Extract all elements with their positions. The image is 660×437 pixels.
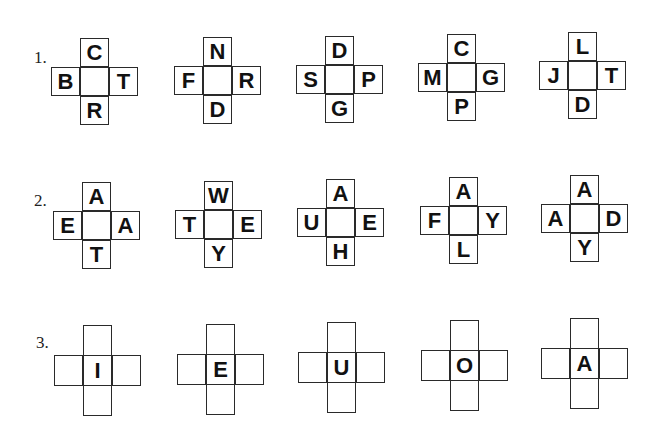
cell-center-blank[interactable] (325, 65, 354, 94)
cell-center-blank[interactable] (326, 208, 355, 237)
cell-left[interactable]: A (541, 204, 570, 233)
cell-center-blank[interactable] (80, 67, 109, 96)
cell-center-blank[interactable] (203, 66, 232, 95)
cell-center[interactable]: O (450, 350, 479, 381)
cell-center[interactable]: E (206, 354, 235, 385)
cell-right-blank[interactable] (599, 348, 628, 379)
row-1-puzzle-1: C B T R (51, 38, 141, 128)
row-1-puzzle-3: D S P G (296, 36, 386, 126)
cell-center-blank[interactable] (447, 63, 476, 92)
cell-top[interactable]: W (204, 181, 233, 210)
row-2-puzzle-2: W T E Y (175, 181, 265, 271)
cell-left-blank[interactable] (54, 355, 83, 386)
row-3-number: 3. (36, 333, 49, 353)
row-1-number: 1. (34, 48, 47, 68)
cell-right[interactable]: T (597, 61, 626, 90)
cell-center[interactable]: U (327, 352, 356, 383)
cell-left[interactable]: S (296, 65, 325, 94)
row-2-puzzle-1: A E A T (53, 182, 143, 272)
cell-bottom[interactable]: G (325, 94, 354, 123)
row-3-puzzle-2: E (177, 324, 267, 414)
cell-left[interactable]: B (51, 67, 80, 96)
cell-top[interactable]: A (570, 175, 599, 204)
cell-right-blank[interactable] (112, 355, 141, 386)
cell-right-blank[interactable] (479, 350, 508, 381)
cell-center[interactable]: I (83, 355, 112, 386)
cell-right[interactable]: E (233, 210, 262, 239)
row-1-puzzle-2: N F R D (174, 37, 264, 127)
row-3-puzzle-1: I (54, 325, 144, 415)
cell-right[interactable]: A (111, 211, 140, 240)
cell-right[interactable]: G (476, 63, 505, 92)
cell-left[interactable]: F (174, 66, 203, 95)
cell-right[interactable]: P (354, 65, 383, 94)
cell-top-blank[interactable] (206, 324, 235, 355)
cell-top[interactable]: L (568, 32, 597, 61)
row-2-puzzle-3: A U E H (297, 179, 387, 269)
cell-bottom[interactable]: Y (204, 239, 233, 268)
cell-bottom[interactable]: R (80, 96, 109, 125)
cell-bottom[interactable]: P (447, 92, 476, 121)
cell-top-blank[interactable] (83, 325, 112, 356)
row-3-puzzle-4: O (421, 320, 511, 410)
cell-bottom-blank[interactable] (450, 380, 479, 411)
cell-left-blank[interactable] (421, 350, 450, 381)
cell-center-blank[interactable] (204, 210, 233, 239)
cell-top[interactable]: D (325, 36, 354, 65)
cell-top[interactable]: A (82, 182, 111, 211)
cell-left-blank[interactable] (541, 348, 570, 379)
cell-center-blank[interactable] (449, 206, 478, 235)
cell-top[interactable]: N (203, 37, 232, 66)
cell-left[interactable]: J (539, 61, 568, 90)
cell-bottom[interactable]: H (326, 237, 355, 266)
cell-right-blank[interactable] (356, 352, 385, 383)
cell-bottom[interactable]: L (449, 235, 478, 264)
cell-bottom[interactable]: T (82, 240, 111, 269)
cell-top[interactable]: C (80, 38, 109, 67)
cell-center-blank[interactable] (570, 204, 599, 233)
cell-bottom-blank[interactable] (570, 378, 599, 409)
cell-top[interactable]: C (447, 34, 476, 63)
cell-top[interactable]: A (326, 179, 355, 208)
cell-bottom-blank[interactable] (206, 384, 235, 415)
cell-right[interactable]: E (355, 208, 384, 237)
cell-left[interactable]: F (420, 206, 449, 235)
row-2-puzzle-5: A A D Y (541, 175, 631, 265)
cell-top-blank[interactable] (327, 322, 356, 353)
row-2-number: 2. (34, 191, 47, 211)
cell-right-blank[interactable] (235, 354, 264, 385)
row-1-puzzle-5: L J T D (539, 32, 629, 122)
cell-top-blank[interactable] (450, 320, 479, 351)
cell-center-blank[interactable] (568, 61, 597, 90)
row-1-puzzle-4: C M G P (418, 34, 508, 124)
row-3-puzzle-5: A (541, 318, 631, 408)
cell-center-blank[interactable] (82, 211, 111, 240)
cell-center[interactable]: A (570, 348, 599, 379)
cell-right[interactable]: D (599, 204, 628, 233)
cell-top-blank[interactable] (570, 318, 599, 349)
cell-left[interactable]: T (175, 210, 204, 239)
cell-bottom[interactable]: Y (570, 233, 599, 262)
cell-left[interactable]: M (418, 63, 447, 92)
cell-left[interactable]: E (53, 211, 82, 240)
cell-left[interactable]: U (297, 208, 326, 237)
cell-left-blank[interactable] (298, 352, 327, 383)
row-3-puzzle-3: U (298, 322, 388, 412)
cell-bottom-blank[interactable] (327, 382, 356, 413)
cell-bottom[interactable]: D (203, 95, 232, 124)
cell-right[interactable]: R (232, 66, 261, 95)
cell-right[interactable]: Y (478, 206, 507, 235)
cell-bottom[interactable]: D (568, 90, 597, 119)
row-2-puzzle-4: A F Y L (420, 177, 510, 267)
cell-left-blank[interactable] (177, 354, 206, 385)
cell-bottom-blank[interactable] (83, 385, 112, 416)
cell-top[interactable]: A (449, 177, 478, 206)
cell-right[interactable]: T (109, 67, 138, 96)
